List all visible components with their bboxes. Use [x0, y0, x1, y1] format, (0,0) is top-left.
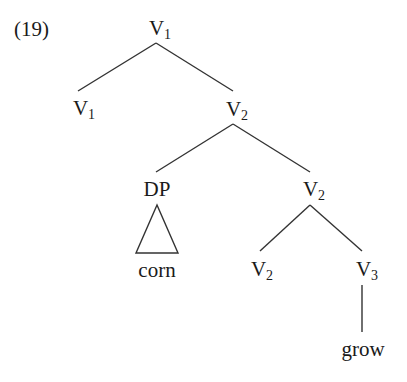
dp-triangle	[136, 205, 178, 253]
edge-v2-to-dp	[156, 124, 233, 172]
edge-v2-to-v2	[233, 124, 310, 172]
node-v2-mid: V2	[226, 99, 248, 120]
tree-branches	[0, 0, 407, 382]
node-v3: V3	[356, 259, 378, 280]
node-v2-low: V2	[303, 179, 325, 200]
node-v1-left: V1	[73, 98, 95, 119]
node-root-v1: V1	[149, 18, 171, 39]
node-v2-leaf: V2	[251, 259, 273, 280]
edge-v2-to-v2-leaf	[260, 205, 310, 251]
leaf-corn: corn	[138, 260, 175, 281]
edge-root-to-v1	[78, 43, 156, 91]
node-dp: DP	[144, 179, 171, 200]
edge-root-to-v2	[156, 43, 233, 91]
edge-v2-to-v3	[310, 205, 362, 251]
leaf-grow: grow	[341, 339, 384, 360]
